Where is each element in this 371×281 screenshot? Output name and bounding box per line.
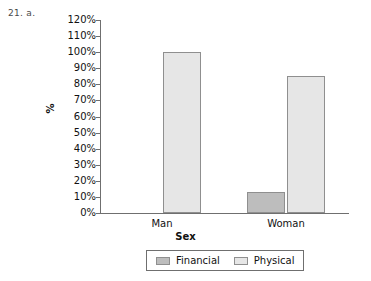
- y-axis-title: %: [45, 99, 56, 119]
- chart-legend: FinancialPhysical: [146, 250, 304, 271]
- y-axis-tick-label: 120%: [67, 14, 96, 26]
- y-axis-tick-label: 50%: [74, 127, 96, 139]
- bar-financial-woman: [247, 192, 285, 213]
- bar-physical-man: [163, 52, 201, 213]
- y-axis-tick-label: 40%: [74, 143, 96, 155]
- x-axis-tick-label: Man: [122, 218, 202, 229]
- problem-number-label: 21. a.: [8, 8, 35, 18]
- y-axis-tick-label: 100%: [67, 46, 96, 58]
- x-axis-title: Sex: [0, 231, 371, 242]
- y-axis-tick-label: 80%: [74, 78, 96, 90]
- y-axis-tick-label: 20%: [74, 175, 96, 187]
- legend-entry-physical: Physical: [234, 255, 295, 266]
- legend-swatch-icon: [234, 257, 248, 265]
- y-axis-tick-label: 60%: [74, 111, 96, 123]
- x-axis-line: [100, 213, 349, 214]
- y-axis-tick-label: 110%: [67, 30, 96, 42]
- legend-swatch-icon: [156, 257, 170, 265]
- y-axis-tick-label: 90%: [74, 62, 96, 74]
- legend-label: Physical: [254, 255, 295, 266]
- y-axis-tick-label: 30%: [74, 159, 96, 171]
- x-axis-tick-label: Woman: [246, 218, 326, 229]
- legend-entry-financial: Financial: [156, 255, 220, 266]
- bar-physical-woman: [287, 76, 325, 213]
- legend-label: Financial: [176, 255, 220, 266]
- y-axis-tick-label: 0%: [80, 207, 96, 219]
- plot-area: [100, 20, 348, 213]
- y-axis-tick-label: 70%: [74, 94, 96, 106]
- figure: 21. a. % 120%110%100%90%80%70%60%50%40%3…: [0, 0, 371, 281]
- y-axis-tick-label: 10%: [74, 191, 96, 203]
